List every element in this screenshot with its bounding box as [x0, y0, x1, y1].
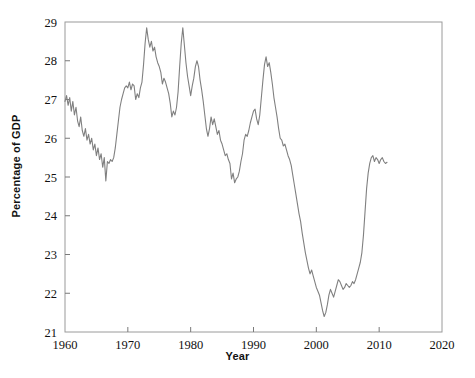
plot-area-border: [65, 22, 442, 332]
chart-figure: Percentage of GDP Year 19601970198019902…: [0, 0, 475, 378]
x-tick-label: 2010: [367, 338, 392, 352]
y-tick-label: 29: [45, 16, 58, 30]
x-tick-label: 1980: [178, 338, 203, 352]
y-tick-label: 21: [45, 326, 58, 340]
x-tick-label: 2000: [304, 338, 329, 352]
x-tick-label: 1990: [241, 338, 266, 352]
y-tick-label: 28: [45, 54, 58, 68]
y-tick-label: 27: [45, 93, 58, 107]
line-chart-plot: 1960197019801990200020102020 21222324252…: [0, 0, 475, 378]
x-tick-label: 2020: [430, 338, 455, 352]
x-tick-label: 1970: [115, 338, 140, 352]
y-tick-label: 22: [45, 287, 58, 301]
y-tick-label: 24: [45, 209, 58, 223]
plot-frame: [65, 22, 442, 332]
y-tick-label: 23: [45, 248, 58, 262]
x-tick-label: 1960: [53, 338, 78, 352]
y-tick-label: 26: [45, 132, 58, 146]
y-tick-label: 25: [45, 171, 58, 185]
